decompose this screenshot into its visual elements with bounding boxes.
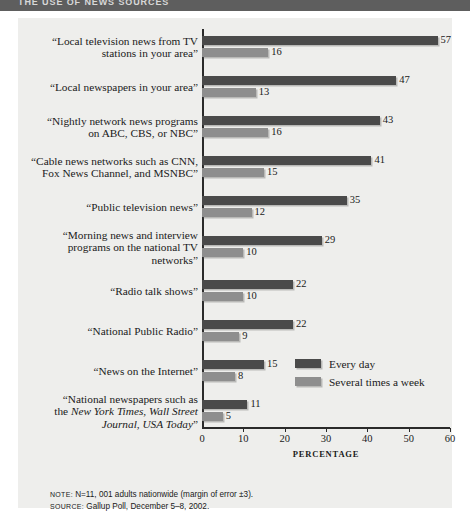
- x-axis-tick-label: 40: [362, 433, 373, 444]
- bar-every-day: [202, 156, 371, 165]
- bar-several: [202, 208, 252, 217]
- bar-every-day: [202, 280, 293, 289]
- category-label: “National newspapers such asthe New York…: [22, 393, 198, 431]
- category-label: “Nightly network news programson ABC, CB…: [22, 115, 198, 140]
- legend-item-every-day: Every day: [295, 356, 425, 371]
- bar-value-label: 8: [238, 370, 243, 381]
- legend-label-several-times: Several times a week: [329, 376, 425, 388]
- bar-several: [202, 248, 243, 257]
- bar-value-label: 57: [441, 34, 452, 45]
- bar-value-label: 41: [374, 154, 385, 165]
- x-axis-tick: [326, 428, 327, 432]
- header-bar: THE USE OF NEWS SOURCES: [0, 0, 470, 11]
- legend-label-every-day: Every day: [329, 358, 375, 370]
- bar-value-label: 47: [399, 74, 410, 85]
- footnote-source-text: Gallup Poll, December 5–8, 2002.: [84, 502, 209, 511]
- bar-value-label: 16: [271, 126, 282, 137]
- category-label: “Radio talk shows”: [22, 285, 198, 298]
- category-label: “Cable news networks such as CNN,Fox New…: [22, 155, 198, 180]
- bar-value-label: 29: [325, 234, 336, 245]
- bar-value-label: 10: [246, 246, 257, 257]
- x-axis-tick-label: 0: [199, 433, 204, 444]
- x-axis-tick-label: 60: [445, 433, 456, 444]
- bar-every-day: [202, 76, 396, 85]
- bar-value-label: 15: [267, 166, 278, 177]
- bar-value-label: 5: [226, 410, 231, 421]
- bar-value-label: 43: [383, 114, 394, 125]
- x-axis-tick: [243, 428, 244, 432]
- bar-several: [202, 412, 223, 421]
- bar-every-day: [202, 360, 264, 369]
- x-axis-tick: [285, 428, 286, 432]
- footnote-note: NOTE: N=11, 001 adults nationwide (margi…: [50, 489, 253, 501]
- bar-every-day: [202, 236, 322, 245]
- bar-every-day: [202, 116, 380, 125]
- bar-several: [202, 88, 256, 97]
- chart-panel: 0102030405060 57164713431641153512291022…: [18, 18, 452, 508]
- bar-value-label: 35: [350, 194, 361, 205]
- bar-every-day: [202, 36, 438, 45]
- bar-value-label: 16: [271, 46, 282, 57]
- footnote-source: SOURCE: Gallup Poll, December 5–8, 2002.: [50, 501, 253, 513]
- x-axis-title: PERCENTAGE: [202, 449, 450, 459]
- bar-value-label: 22: [296, 318, 307, 329]
- footnotes: NOTE: N=11, 001 adults nationwide (margi…: [50, 489, 253, 512]
- x-axis-tick: [409, 428, 410, 432]
- bar-value-label: 15: [267, 358, 278, 369]
- category-label: “News on the Internet”: [22, 365, 198, 378]
- legend-swatch-several-times: [295, 377, 321, 386]
- bar-several: [202, 168, 264, 177]
- legend-swatch-every-day: [295, 359, 321, 368]
- legend-item-several-times: Several times a week: [295, 374, 425, 389]
- bar-several: [202, 372, 235, 381]
- category-label: “Morning news and interviewprograms on t…: [22, 229, 198, 267]
- bar-value-label: 12: [255, 206, 266, 217]
- x-axis-tick: [367, 428, 368, 432]
- category-label: “National Public Radio”: [22, 325, 198, 338]
- category-label: “Local newspapers in your area”: [22, 81, 198, 94]
- x-axis-tick-label: 10: [238, 433, 249, 444]
- bar-value-label: 13: [259, 86, 270, 97]
- footnote-source-key: SOURCE:: [50, 503, 84, 510]
- bar-every-day: [202, 320, 293, 329]
- x-axis-tick-label: 20: [279, 433, 290, 444]
- bar-value-label: 9: [242, 330, 247, 341]
- footnote-note-text: N=11, 001 adults nationwide (margin of e…: [73, 490, 253, 499]
- bar-value-label: 10: [246, 290, 257, 301]
- x-axis-tick-label: 30: [321, 433, 332, 444]
- bar-value-label: 11: [250, 398, 260, 409]
- header-title: THE USE OF NEWS SOURCES: [18, 0, 169, 7]
- bar-value-label: 22: [296, 278, 307, 289]
- x-axis-tick: [450, 428, 451, 432]
- x-axis-tick-label: 50: [403, 433, 414, 444]
- bar-several: [202, 292, 243, 301]
- category-label: “Public television news”: [22, 201, 198, 214]
- bar-every-day: [202, 400, 247, 409]
- footnote-note-key: NOTE:: [50, 491, 73, 498]
- chart-legend: Every day Several times a week: [295, 356, 425, 392]
- chart-page: THE USE OF NEWS SOURCES 0102030405060 57…: [0, 0, 470, 527]
- bar-every-day: [202, 196, 347, 205]
- bar-several: [202, 128, 268, 137]
- plot-area: 0102030405060 57164713431641153512291022…: [18, 18, 452, 418]
- bar-several: [202, 48, 268, 57]
- bar-several: [202, 332, 239, 341]
- category-label: “Local television news from TVstations i…: [22, 35, 198, 60]
